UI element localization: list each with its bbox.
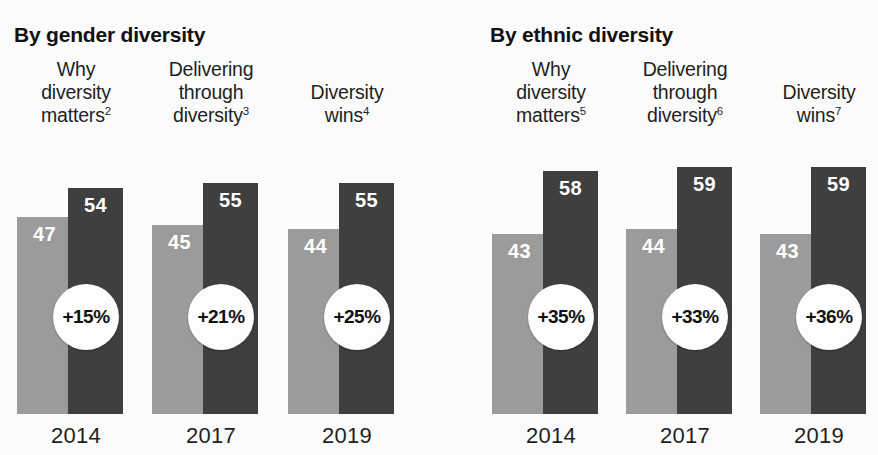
year-label: 2019 [760, 423, 878, 449]
delta-badge-value: +35% [537, 306, 584, 328]
bar-value-label: 54 [68, 194, 123, 217]
bar-value-label: 44 [288, 235, 343, 258]
group-label-line: wins [797, 104, 835, 126]
delta-badge-value: +36% [805, 306, 852, 328]
bars-area: 4359+36% [760, 154, 878, 414]
bar-value-label: 58 [543, 177, 598, 200]
group-label-line: Diversity [783, 81, 856, 103]
delta-badge-value: +25% [333, 306, 380, 328]
group-label-footnote: 6 [717, 105, 723, 117]
group-label-line: matters [516, 104, 580, 126]
bars-area: 4754+15% [17, 154, 135, 414]
group-label: Whydiversitymatters5 [492, 58, 610, 127]
bars-area: 4358+35% [492, 154, 610, 414]
delta-badge: +25% [324, 284, 390, 350]
diversity-bar-chart: By gender diversityWhydiversitymatters24… [0, 0, 878, 455]
delta-badge-value: +15% [62, 306, 109, 328]
bar-group-2014: Whydiversitymatters24754+15%2014 [17, 0, 135, 455]
group-label-line: through [653, 81, 718, 103]
group-label-line: diversity [516, 81, 586, 103]
bar-group-2017: Deliveringthroughdiversity64459+33%2017 [626, 0, 744, 455]
delta-badge: +36% [796, 284, 862, 350]
year-label: 2019 [288, 423, 406, 449]
delta-badge: +15% [53, 284, 119, 350]
year-label: 2017 [152, 423, 270, 449]
group-label-line: Why [532, 58, 570, 80]
panel-ethnic-diversity: By ethnic diversityWhydiversitymatters54… [440, 0, 878, 455]
delta-badge-value: +33% [671, 306, 718, 328]
bar-group-2019: Diversitywins44455+25%2019 [288, 0, 406, 455]
group-label-line: wins [325, 104, 363, 126]
group-label-line: diversity [41, 81, 111, 103]
year-label: 2014 [492, 423, 610, 449]
group-label: Deliveringthroughdiversity6 [626, 58, 744, 127]
group-label: Diversitywins7 [760, 81, 878, 127]
group-label-footnote: 3 [243, 105, 249, 117]
group-label: Whydiversitymatters2 [17, 58, 135, 127]
bars-area: 4459+33% [626, 154, 744, 414]
year-label: 2014 [17, 423, 135, 449]
delta-badge: +21% [188, 284, 254, 350]
delta-badge: +35% [528, 284, 594, 350]
bars-area: 4555+21% [152, 154, 270, 414]
bar-value-label: 55 [339, 189, 394, 212]
group-label-footnote: 2 [105, 105, 111, 117]
bar-value-label: 47 [17, 223, 72, 246]
bar-value-label: 45 [152, 231, 207, 254]
bar-group-2014: Whydiversitymatters54358+35%2014 [492, 0, 610, 455]
bar-value-label: 43 [760, 240, 815, 263]
group-label-line: matters [41, 104, 105, 126]
bar-value-label: 59 [811, 173, 866, 196]
bar-value-label: 43 [492, 240, 547, 263]
group-label-line: diversity [173, 104, 243, 126]
group-label-line: Why [57, 58, 95, 80]
delta-badge: +33% [662, 284, 728, 350]
year-label: 2017 [626, 423, 744, 449]
panel-gender-diversity: By gender diversityWhydiversitymatters24… [0, 0, 440, 455]
delta-badge-value: +21% [197, 306, 244, 328]
bars-area: 4455+25% [288, 154, 406, 414]
bar-group-2017: Deliveringthroughdiversity34555+21%2017 [152, 0, 270, 455]
bar-group-2019: Diversitywins74359+36%2019 [760, 0, 878, 455]
bar-value-label: 59 [677, 173, 732, 196]
group-label-line: Diversity [311, 81, 384, 103]
group-label-line: through [179, 81, 244, 103]
group-label: Diversitywins4 [288, 81, 406, 127]
group-label-line: Delivering [169, 58, 254, 80]
bar-value-label: 44 [626, 235, 681, 258]
bar-value-label: 55 [203, 189, 258, 212]
group-label-footnote: 5 [580, 105, 586, 117]
group-label-line: Delivering [643, 58, 728, 80]
group-label-footnote: 4 [363, 105, 369, 117]
group-label: Deliveringthroughdiversity3 [152, 58, 270, 127]
group-label-line: diversity [647, 104, 717, 126]
group-label-footnote: 7 [835, 105, 841, 117]
